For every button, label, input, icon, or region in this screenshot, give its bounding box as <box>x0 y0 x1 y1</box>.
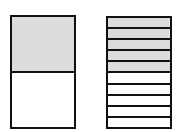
tenth-part-unshaded <box>108 73 170 84</box>
tenth-part-shaded <box>108 29 170 40</box>
tenth-part-unshaded <box>108 107 170 118</box>
tenth-part-unshaded <box>108 85 170 96</box>
tenth-part-unshaded <box>108 118 170 127</box>
half-part-unshaded <box>12 73 74 127</box>
fraction-model-halves <box>10 15 76 129</box>
tenth-part-shaded <box>108 62 170 73</box>
tenth-part-shaded <box>108 40 170 51</box>
half-part-shaded <box>12 17 74 73</box>
fraction-model-tenths <box>106 16 172 129</box>
tenth-part-shaded <box>108 51 170 62</box>
tenth-part-shaded <box>108 18 170 29</box>
tenth-part-unshaded <box>108 96 170 107</box>
